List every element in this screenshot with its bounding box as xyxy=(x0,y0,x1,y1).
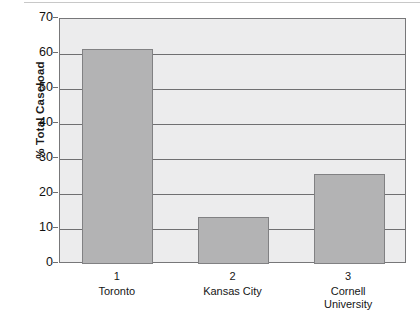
x-axis-category-number: 1 xyxy=(59,270,175,283)
y-axis-tick-mark xyxy=(53,227,58,228)
y-axis-tick-label: 0 xyxy=(9,256,53,268)
bar xyxy=(82,49,153,264)
x-axis-category-number: 2 xyxy=(175,270,291,283)
y-axis-tick-mark xyxy=(53,262,58,263)
x-axis-category-name-line2: University xyxy=(290,298,406,311)
y-axis-tick-mark xyxy=(53,157,58,158)
y-axis-tick-mark xyxy=(53,87,58,88)
y-axis-tick-label: 10 xyxy=(9,221,53,233)
x-axis-category-label: 3CornellUniversity xyxy=(290,270,406,311)
x-axis-category-label: 2Kansas City xyxy=(175,270,291,298)
y-axis-tick-label: 50 xyxy=(9,81,53,93)
x-axis-category-label: 1Toronto xyxy=(59,270,175,298)
y-axis-tick-mark xyxy=(53,122,58,123)
y-axis-tick-label: 40 xyxy=(9,116,53,128)
y-axis-tick-label: 30 xyxy=(9,151,53,163)
y-axis-tick-mark xyxy=(53,192,58,193)
y-axis-title: % Total Caseload xyxy=(34,10,46,210)
y-axis-tick-label: 60 xyxy=(9,46,53,58)
x-axis-category-name: Toronto xyxy=(59,285,175,298)
top-rule-divider xyxy=(24,2,420,3)
y-axis-tick-label: 20 xyxy=(9,186,53,198)
y-axis-tick-mark xyxy=(53,17,58,18)
x-axis-category-number: 3 xyxy=(290,270,406,283)
x-axis-category-name: Cornell xyxy=(290,285,406,298)
bar xyxy=(314,174,385,264)
bar-chart-figure: % Total Caseload 010203040506070 1Toront… xyxy=(0,0,420,313)
x-axis-category-name: Kansas City xyxy=(175,285,291,298)
bar xyxy=(198,217,269,264)
y-axis-tick-mark xyxy=(53,52,58,53)
plot-area xyxy=(59,18,406,263)
y-axis-tick-label: 70 xyxy=(9,11,53,23)
